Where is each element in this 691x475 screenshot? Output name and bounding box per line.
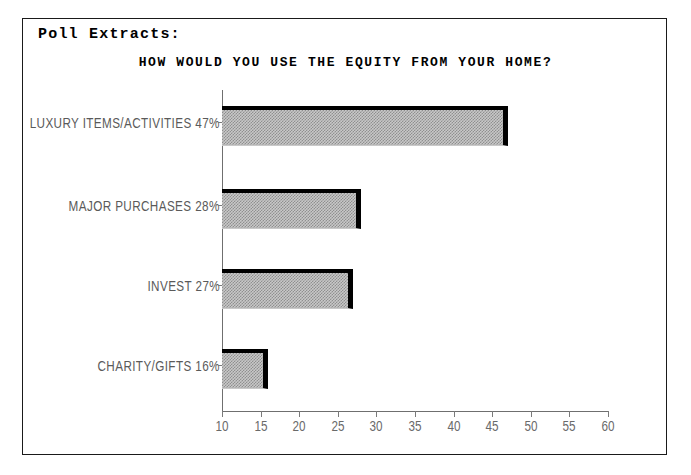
- x-axis-tick-label: 60: [592, 417, 623, 434]
- x-axis-tick-label: 45: [477, 417, 508, 434]
- plot-area: LUXURY ITEMS/ACTIVITIES 47% MAJOR PURCHA…: [0, 0, 691, 475]
- bar-category-label: MAJOR PURCHASES 28%: [69, 197, 220, 214]
- bar-row: INVEST 27%: [0, 263, 691, 311]
- x-axis-tick-label: 15: [245, 417, 276, 434]
- bar-charity-gifts: [222, 349, 268, 389]
- bar-major-purchases: [222, 189, 361, 229]
- bar-invest: [222, 269, 353, 309]
- x-axis-tick-label: 30: [361, 417, 392, 434]
- bar-category-label: INVEST 27%: [147, 277, 220, 294]
- x-axis-tick-label: 10: [206, 417, 237, 434]
- x-axis-tick-label: 55: [554, 417, 585, 434]
- bar-row: CHARITY/GIFTS 16%: [0, 343, 691, 391]
- x-axis-tick-label: 35: [399, 417, 430, 434]
- bar-luxury-items-activities: [222, 106, 508, 146]
- x-axis-tick-label: 20: [284, 417, 315, 434]
- bar-category-label: LUXURY ITEMS/ACTIVITIES 47%: [30, 114, 220, 131]
- bar-row: LUXURY ITEMS/ACTIVITIES 47%: [0, 100, 691, 148]
- chart-page: Poll Extracts: HOW WOULD YOU USE THE EQU…: [0, 0, 691, 475]
- bar-row: MAJOR PURCHASES 28%: [0, 183, 691, 231]
- x-axis-tick-label: 40: [438, 417, 469, 434]
- x-axis-tick-label: 50: [515, 417, 546, 434]
- x-axis-tick-label: 25: [322, 417, 353, 434]
- bar-category-label: CHARITY/GIFTS 16%: [98, 357, 220, 374]
